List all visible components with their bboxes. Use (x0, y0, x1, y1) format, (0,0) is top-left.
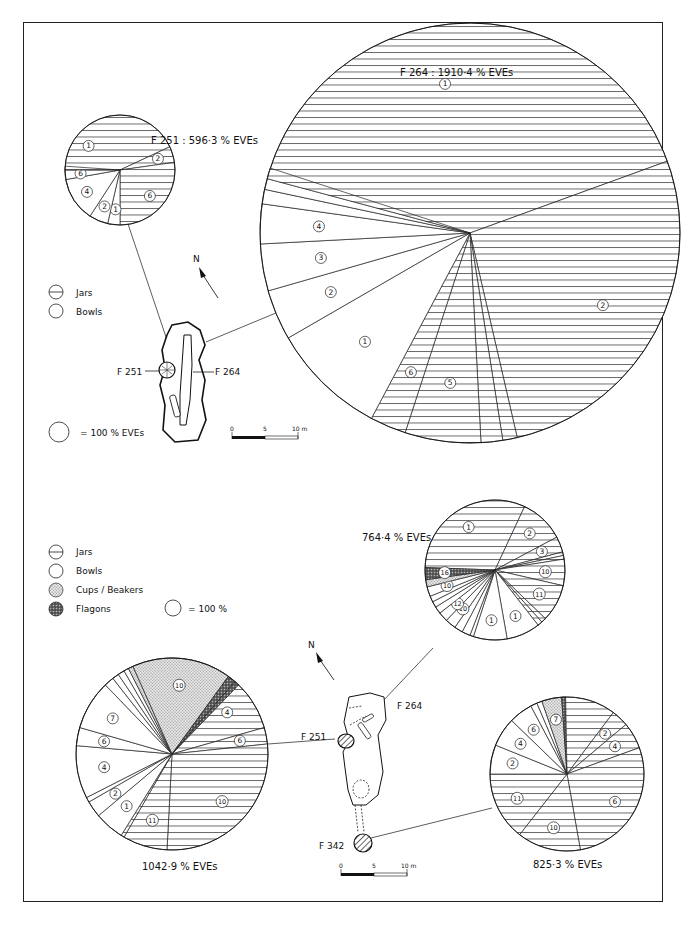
slice-label: 6 (102, 737, 107, 746)
bottom-panel: 12310111110121016 764·4 % EVEs 146101112… (49, 500, 644, 876)
slice-label: 1 (124, 802, 129, 811)
slice-label: 4 (317, 222, 322, 231)
svg-text:Jars: Jars (75, 547, 93, 557)
pie-title-bottom-f264: 764·4 % EVEs (362, 532, 431, 543)
pie-chart-f251: 1261246 (65, 115, 175, 225)
svg-text:0: 0 (339, 862, 343, 869)
slice-label: 2 (102, 202, 107, 211)
slice-label: 2 (510, 759, 515, 768)
feature-f251 (338, 734, 354, 748)
slice-label: 6 (613, 797, 618, 806)
legend-item-flagons: Flagons (49, 602, 111, 616)
legend-top: Jars Bowls = 100 % EVEs (49, 285, 144, 442)
svg-text:= 100 % EVEs: = 100 % EVEs (80, 428, 144, 438)
svg-text:10 m: 10 m (401, 862, 417, 869)
svg-text:Cups / Beakers: Cups / Beakers (76, 585, 143, 595)
pie-title-f264: F 264 : 1910·4 % EVEs (400, 67, 513, 78)
slice-label: 11 (535, 591, 543, 599)
slice-label: 4 (102, 763, 107, 772)
slice-label: 10 (541, 568, 549, 576)
slice-label: 2 (527, 529, 532, 538)
pie-chart-bottom-f342: 124610112467 (490, 697, 644, 851)
svg-text:N: N (193, 254, 200, 264)
top-panel: 1261246 F 251 : 596·3 % EVEs 12561234 F … (49, 23, 680, 443)
site-plan-bottom: F 264 F 251 F 342 (301, 693, 422, 852)
legend-item-bowls: Bowls (49, 304, 103, 318)
legend-scale-circle: = 100 % (165, 600, 227, 616)
legend-scale-circle: = 100 % EVEs (49, 422, 144, 442)
slice-label: 16 (441, 569, 449, 577)
connector-line (371, 808, 492, 838)
scalebar-top: 0 5 10 m (230, 425, 308, 439)
legend-bottom: Jars Bowls Cups / Beakers Flagons = 100 … (49, 545, 227, 616)
slice-label: 7 (110, 714, 115, 723)
slice-label: 1 (466, 523, 471, 532)
figure-canvas: 1261246 F 251 : 596·3 % EVEs 12561234 F … (0, 0, 688, 936)
slice-label: 6 (237, 736, 242, 745)
pie-title-bottom-f251: 1042·9 % EVEs (142, 861, 218, 872)
svg-text:10 m: 10 m (292, 425, 308, 432)
slice-label: 10 (443, 582, 451, 590)
slice-label: 1 (113, 205, 118, 214)
slice-label: 1 (513, 612, 518, 621)
slice-label: 10 (218, 798, 226, 806)
north-arrow-icon: N (308, 640, 334, 680)
slice-label: 11 (148, 817, 156, 825)
svg-text:F 264: F 264 (215, 367, 240, 377)
svg-text:Flagons: Flagons (76, 604, 111, 614)
scalebar-bottom: 0 5 10 m (339, 862, 417, 876)
slice-label: 1 (363, 337, 368, 346)
svg-text:5: 5 (372, 862, 376, 869)
svg-text:F 342: F 342 (319, 841, 344, 851)
legend-item-jars: Jars (49, 545, 93, 559)
slice-label: 1 (489, 616, 494, 625)
slice-label: 2 (328, 288, 333, 297)
svg-text:F 264: F 264 (397, 701, 422, 711)
slice-label: 11 (513, 795, 521, 803)
slice-label: 4 (518, 739, 523, 748)
slice-label: 2 (113, 789, 118, 798)
svg-text:F 251: F 251 (301, 732, 326, 742)
slice-label: 3 (540, 547, 545, 556)
svg-text:0: 0 (230, 425, 234, 432)
connector-line (128, 224, 167, 340)
legend-item-jars: Jars (49, 285, 93, 299)
slice-label: 5 (448, 378, 453, 387)
slice-label: 6 (409, 368, 414, 377)
svg-text:5: 5 (263, 425, 267, 432)
pie-title-bottom-f342: 825·3 % EVEs (533, 859, 602, 870)
slice-label: 7 (554, 715, 559, 724)
north-arrow-icon: N (193, 254, 218, 298)
pie-chart-bottom-f251: 14610111246710 (76, 658, 268, 850)
svg-text:F 251: F 251 (117, 367, 142, 377)
slice-label: 10 (549, 824, 557, 832)
slice-label: 2 (156, 154, 161, 163)
svg-text:Jars: Jars (75, 288, 93, 298)
slice-label: 6 (531, 725, 536, 734)
slice-label: 3 (318, 253, 323, 262)
connector-line (382, 648, 433, 702)
slice-label: 4 (225, 708, 230, 717)
slice-label: 4 (85, 187, 90, 196)
slice-label: 10 (175, 682, 183, 690)
slice-label: 1 (86, 141, 91, 150)
svg-text:N: N (308, 640, 315, 650)
pie-slice (167, 744, 268, 850)
pie-chart-f264: 12561234 (260, 23, 680, 443)
svg-text:= 100 %: = 100 % (188, 604, 227, 614)
feature-f342 (354, 834, 372, 852)
pie-chart-bottom-f264: 12310111110121016 (425, 500, 565, 640)
svg-text:Bowls: Bowls (76, 307, 103, 317)
slice-label: 6 (147, 191, 152, 200)
legend-item-bowls: Bowls (49, 564, 103, 578)
legend-item-cups-beakers: Cups / Beakers (49, 583, 143, 597)
figure: 1261246 F 251 : 596·3 % EVEs 12561234 F … (0, 0, 688, 936)
slice-label: 2 (603, 729, 608, 738)
pie-title-f251: F 251 : 596·3 % EVEs (151, 135, 258, 146)
slice-label: 4 (613, 742, 618, 751)
slice-label: 1 (443, 79, 448, 88)
svg-text:Bowls: Bowls (76, 566, 103, 576)
slice-label: 2 (600, 301, 605, 310)
site-plan-top: F 251 F 264 (117, 322, 240, 442)
